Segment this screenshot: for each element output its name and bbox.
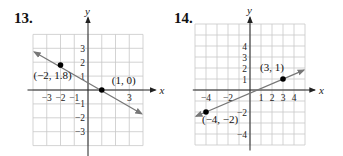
y-tick-label: 1 xyxy=(242,75,247,85)
point-label: (3, 1) xyxy=(260,61,284,74)
point-label: (−4, −2) xyxy=(202,113,239,126)
x-tick-label: 3 xyxy=(281,93,286,103)
data-point xyxy=(280,76,286,82)
x-axis-label: x xyxy=(318,84,324,96)
y-tick-label: 4 xyxy=(242,42,247,52)
y-tick-label: −2 xyxy=(237,108,247,118)
graph-14: xy−4−212344321−2−4(−4, −2)(3, 1) xyxy=(0,0,343,156)
x-tick-label: 2 xyxy=(270,93,275,103)
y-tick-label: 3 xyxy=(242,53,247,63)
y-tick-label: −4 xyxy=(237,130,247,140)
y-tick-label: 2 xyxy=(242,64,247,74)
x-tick-label: 4 xyxy=(292,93,297,103)
y-axis-label: y xyxy=(246,4,252,16)
x-tick-label: −4 xyxy=(201,93,211,103)
x-tick-label: 1 xyxy=(259,93,264,103)
